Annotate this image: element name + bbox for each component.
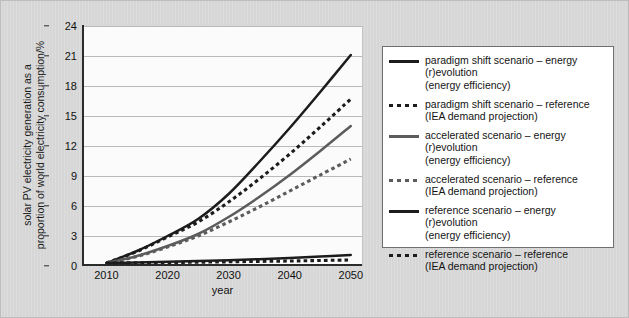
plot-area xyxy=(82,26,363,266)
legend-item-0[interactable]: paradigm shift scenario – energy (r)evol… xyxy=(389,54,607,91)
y-axis-tick-label: 24 xyxy=(65,20,77,32)
legend-label-line1: paradigm shift scenario – energy (r)evol… xyxy=(425,54,577,78)
legend-label-line1: reference scenario – reference xyxy=(425,248,568,260)
y-axis-tick-label: 21 xyxy=(65,50,77,62)
legend-item-5[interactable]: reference scenario – reference(IEA deman… xyxy=(389,248,607,273)
y-axis-tick-mark xyxy=(44,85,49,86)
y-axis-tick-label: 15 xyxy=(65,110,77,122)
legend-label-line2: (energy efficiency) xyxy=(425,229,607,241)
legend-label-line2: (IEA demand projection) xyxy=(425,110,590,122)
y-axis-tick-mark xyxy=(44,25,49,26)
solid-line-icon xyxy=(389,131,419,142)
legend-label-0: paradigm shift scenario – energy (r)evol… xyxy=(425,54,607,91)
legend-label-line1: accelerated scenario – reference xyxy=(425,173,578,185)
legend-label-3: accelerated scenario – reference(IEA dem… xyxy=(425,173,578,198)
legend-label-4: reference scenario – energy (r)evolution… xyxy=(425,204,607,241)
x-axis-title: year xyxy=(82,284,363,296)
y-axis-tick-label: 3 xyxy=(71,230,77,242)
figure-container: solar PV electricity generation as a pro… xyxy=(0,0,629,318)
x-axis-tick-label: 2010 xyxy=(94,269,118,281)
solid-line-icon xyxy=(389,206,419,217)
y-axis-tick-label: 18 xyxy=(65,80,77,92)
dashed-line-icon xyxy=(389,250,419,261)
y-axis-tick-mark xyxy=(44,265,49,266)
series-line-1 xyxy=(106,99,350,263)
y-axis-title-line1: solar PV electricity generation as a xyxy=(21,64,33,226)
y-axis-tick-label: 0 xyxy=(71,260,77,272)
x-axis-tick-label: 2050 xyxy=(339,269,363,281)
legend-label-line2: (energy efficiency) xyxy=(425,154,607,166)
y-axis-tick-mark xyxy=(44,145,49,146)
chart-series-svg xyxy=(82,26,363,266)
y-axis-tick-mark xyxy=(44,175,49,176)
x-axis-tick-label: 2030 xyxy=(216,269,240,281)
series-line-0 xyxy=(106,55,350,263)
x-axis-tick-labels: 20102020203020402050 xyxy=(82,269,363,285)
y-axis-tick-label: 6 xyxy=(71,200,77,212)
y-axis-tick-mark xyxy=(44,205,49,206)
y-axis-tick-mark xyxy=(44,115,49,116)
x-axis-tick-label: 2020 xyxy=(155,269,179,281)
legend-label-line2: (IEA demand projection) xyxy=(425,260,568,272)
y-axis-tick-mark xyxy=(44,55,49,56)
y-axis-tick-labels: 03691215182124 xyxy=(49,26,77,266)
legend-label-1: paradigm shift scenario – reference(IEA … xyxy=(425,98,590,123)
legend-label-5: reference scenario – reference(IEA deman… xyxy=(425,248,568,273)
x-axis-tick-label: 2040 xyxy=(277,269,301,281)
legend-box: paradigm shift scenario – energy (r)evol… xyxy=(382,46,614,248)
y-axis-tick-mark xyxy=(44,235,49,236)
legend-label-line1: reference scenario – energy (r)evolution xyxy=(425,204,556,228)
legend-label-line1: paradigm shift scenario – reference xyxy=(425,98,590,110)
legend-label-line2: (IEA demand projection) xyxy=(425,185,578,197)
y-axis-tick-label: 9 xyxy=(71,170,77,182)
legend-label-line1: accelerated scenario – energy (r)evoluti… xyxy=(425,129,566,153)
legend-item-4[interactable]: reference scenario – energy (r)evolution… xyxy=(389,204,607,241)
solid-line-icon xyxy=(389,56,419,67)
legend-item-3[interactable]: accelerated scenario – reference(IEA dem… xyxy=(389,173,607,198)
dashed-line-icon xyxy=(389,100,419,111)
dashed-line-icon xyxy=(389,175,419,186)
legend-label-line2: (energy efficiency) xyxy=(425,79,607,91)
legend-item-2[interactable]: accelerated scenario – energy (r)evoluti… xyxy=(389,129,607,166)
y-axis-tick-label: 12 xyxy=(65,140,77,152)
legend-item-1[interactable]: paradigm shift scenario – reference(IEA … xyxy=(389,98,607,123)
legend-label-2: accelerated scenario – energy (r)evoluti… xyxy=(425,129,607,166)
